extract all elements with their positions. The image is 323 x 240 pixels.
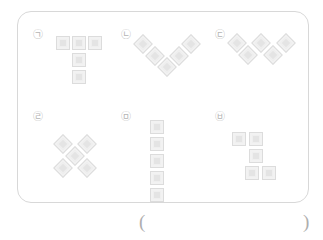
shape-tile xyxy=(276,33,296,53)
shape-tile xyxy=(56,36,70,50)
shape-tile xyxy=(150,120,164,134)
problem-item-3: ㉢ xyxy=(207,12,310,104)
problem-item-2: ㉡ xyxy=(113,12,213,104)
shape-tile xyxy=(263,45,283,65)
problem-item-5: ㉤ xyxy=(113,104,213,204)
problem-item-2-label: ㉡ xyxy=(121,30,131,40)
shape-tile xyxy=(72,53,86,67)
shape-x-pentomino xyxy=(56,137,112,189)
shape-v-pentomino xyxy=(136,34,202,84)
problem-item-6: ㉥ xyxy=(207,104,310,204)
shape-w-zigzag-pentomino xyxy=(230,36,302,80)
problem-item-3-label: ㉢ xyxy=(215,30,225,40)
shape-tile xyxy=(245,166,259,180)
problem-item-5-label: ㉤ xyxy=(121,112,131,122)
answer-paren-open: ( xyxy=(139,212,145,231)
shape-tile xyxy=(77,158,97,178)
shape-tile xyxy=(150,137,164,151)
shape-tile xyxy=(150,188,164,202)
shape-tile xyxy=(72,70,86,84)
shape-tile xyxy=(88,36,102,50)
shape-tile xyxy=(249,132,263,146)
problem-box: ㉠ ㉡ ㉢ ㉣ xyxy=(17,11,309,203)
shape-i-pentomino xyxy=(150,120,166,206)
shape-tile xyxy=(262,166,276,180)
shape-tile xyxy=(232,132,246,146)
answer-paren-close: ) xyxy=(303,212,309,231)
shape-tile xyxy=(150,154,164,168)
answer-line[interactable]: ( ) xyxy=(0,208,323,238)
problem-item-6-label: ㉥ xyxy=(215,112,225,122)
problem-item-4: ㉣ xyxy=(18,104,118,204)
shape-tile xyxy=(150,171,164,185)
problem-item-4-label: ㉣ xyxy=(33,112,43,122)
problem-item-1: ㉠ xyxy=(18,12,118,104)
shape-tile xyxy=(72,36,86,50)
problem-item-1-label: ㉠ xyxy=(33,30,43,40)
shape-t-pentomino xyxy=(56,36,106,88)
shape-s-pentomino xyxy=(232,132,272,184)
shape-tile xyxy=(249,149,263,163)
